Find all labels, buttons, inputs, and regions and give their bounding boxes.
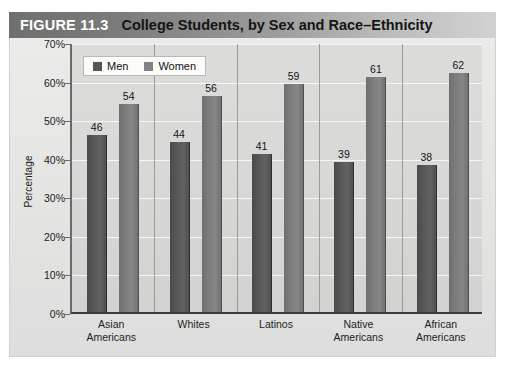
- y-axis-tick-label: 0%: [50, 308, 65, 320]
- y-axis-tick-label: 70%: [44, 38, 65, 50]
- x-axis-tick-labels: AsianAmericansWhitesLatinosNativeAmerica…: [70, 318, 482, 354]
- category-divider: [154, 44, 155, 312]
- y-axis-tick-mark: [64, 83, 70, 84]
- bar-value-label: 38: [420, 151, 432, 163]
- x-axis-label-line: Americans: [416, 331, 466, 344]
- x-axis-label-line: Latinos: [259, 318, 293, 331]
- figure-title-bar: FIGURE 11.3 College Students, by Sex and…: [9, 12, 496, 38]
- bar-value-label: 59: [288, 70, 300, 82]
- gridline: [72, 44, 482, 45]
- bar-men-african-americans: 38: [417, 165, 437, 312]
- category-divider: [319, 44, 320, 312]
- legend-item-men[interactable]: Men: [93, 60, 128, 72]
- y-axis-tick-mark: [64, 237, 70, 238]
- y-axis-tick-label: 10%: [44, 269, 65, 281]
- legend-item-women[interactable]: Women: [144, 60, 196, 72]
- y-axis-tick-label: 60%: [44, 77, 65, 89]
- bar-women-latinos: 59: [284, 84, 304, 312]
- figure-caption: College Students, by Sex and Race–Ethnic…: [121, 17, 432, 33]
- y-axis-tick-labels: 0%10%20%30%40%50%60%70%: [31, 44, 65, 314]
- x-axis-label-line: Asian: [86, 318, 136, 331]
- x-axis-label-line: Native: [334, 318, 384, 331]
- legend-swatch-icon: [144, 62, 153, 71]
- y-axis-tick-mark: [64, 160, 70, 161]
- bar-women-native-americans: 61: [366, 77, 386, 312]
- y-axis-tick-mark: [64, 314, 70, 315]
- bar-value-label: 61: [370, 63, 382, 75]
- figure-number: FIGURE 11.3: [20, 17, 108, 33]
- legend-swatch-icon: [93, 62, 102, 71]
- legend-label: Women: [158, 60, 196, 72]
- y-axis-tick-mark: [64, 121, 70, 122]
- y-axis-tick-label: 50%: [44, 115, 65, 127]
- chart-body: Percentage 0%10%20%30%40%50%60%70% 46544…: [9, 38, 496, 357]
- plot-area: 46544456415939613862: [70, 44, 482, 314]
- y-axis-tick-mark: [64, 275, 70, 276]
- x-axis-tick-label: NativeAmericans: [334, 318, 384, 343]
- figure-container: FIGURE 11.3 College Students, by Sex and…: [0, 0, 507, 369]
- category-divider: [402, 44, 403, 312]
- bar-women-african-americans: 62: [449, 73, 469, 312]
- x-axis-label-line: Americans: [334, 331, 384, 344]
- bar-value-label: 46: [91, 121, 103, 133]
- x-axis-tick-label: AfricanAmericans: [416, 318, 466, 343]
- y-axis-tick-label: 20%: [44, 231, 65, 243]
- bar-value-label: 39: [338, 148, 350, 160]
- y-axis-tick-mark: [64, 198, 70, 199]
- y-axis-tick-label: 30%: [44, 192, 65, 204]
- bar-men-latinos: 41: [252, 154, 272, 312]
- bar-women-whites: 56: [202, 96, 222, 312]
- gridline: [72, 83, 482, 84]
- bar-value-label: 56: [205, 82, 217, 94]
- bar-value-label: 54: [123, 90, 135, 102]
- bar-value-label: 44: [173, 128, 185, 140]
- x-axis-label-line: African: [416, 318, 466, 331]
- bar-women-asian-americans: 54: [119, 104, 139, 312]
- x-axis-tick-label: Whites: [178, 318, 210, 331]
- bar-men-whites: 44: [170, 142, 190, 312]
- y-axis-tick-mark: [64, 44, 70, 45]
- x-axis-label-line: Americans: [86, 331, 136, 344]
- legend-label: Men: [107, 60, 128, 72]
- bar-men-asian-americans: 46: [87, 135, 107, 312]
- x-axis-tick-label: Latinos: [259, 318, 293, 331]
- category-divider: [237, 44, 238, 312]
- y-axis-tick-label: 40%: [44, 154, 65, 166]
- bar-men-native-americans: 39: [334, 162, 354, 312]
- chart-legend: MenWomen: [83, 56, 206, 76]
- bar-value-label: 62: [452, 59, 464, 71]
- x-axis-label-line: Whites: [178, 318, 210, 331]
- bar-value-label: 41: [256, 140, 268, 152]
- x-axis-tick-label: AsianAmericans: [86, 318, 136, 343]
